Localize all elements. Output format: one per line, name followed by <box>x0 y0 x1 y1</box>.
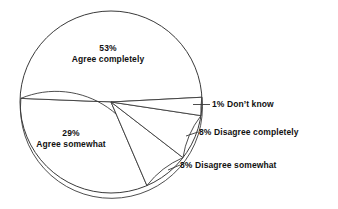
pie-label-disagree-somewhat: 8% Disagree somewhat <box>180 160 276 171</box>
pie-chart: 53% Agree completely 29% Agree somewhat … <box>0 0 338 209</box>
pie-label-agree-completely-percent: 53% <box>52 43 164 54</box>
pie-label-dont-know: 1% Don’t know <box>212 99 274 110</box>
pie-label-agree-completely-name: Agree completely <box>52 54 164 65</box>
pie-label-agree-somewhat-percent: 29% <box>15 128 127 139</box>
pie-label-agree-somewhat: 29% Agree somewhat <box>15 128 127 149</box>
pie-label-disagree-completely-text: 8% Disagree completely <box>199 127 299 137</box>
pie-label-dont-know-text: 1% Don’t know <box>212 99 274 109</box>
pie-label-disagree-completely: 8% Disagree completely <box>199 127 299 138</box>
pie-label-agree-completely: 53% Agree completely <box>52 43 164 64</box>
pie-label-agree-somewhat-name: Agree somewhat <box>15 139 127 150</box>
pie-chart-canvas <box>0 0 338 209</box>
pie-label-disagree-somewhat-text: 8% Disagree somewhat <box>180 160 276 170</box>
